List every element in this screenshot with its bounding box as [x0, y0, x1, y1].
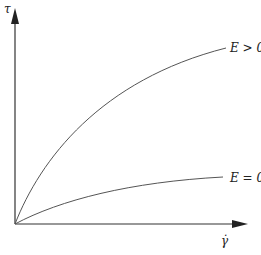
- y-axis-arrow-icon: [11, 8, 19, 24]
- x-axis-label: γ̇: [221, 234, 229, 248]
- y-axis-label: τ: [4, 2, 11, 16]
- diagram: τ γ̇ E > 0 E = 0: [0, 0, 261, 255]
- curve-e-positive: [15, 48, 226, 224]
- curve-label-e-positive: E > 0: [229, 41, 261, 55]
- curve-e-zero: [15, 177, 223, 224]
- x-axis-arrow-icon: [232, 220, 248, 228]
- curve-label-e-zero: E = 0: [229, 171, 261, 185]
